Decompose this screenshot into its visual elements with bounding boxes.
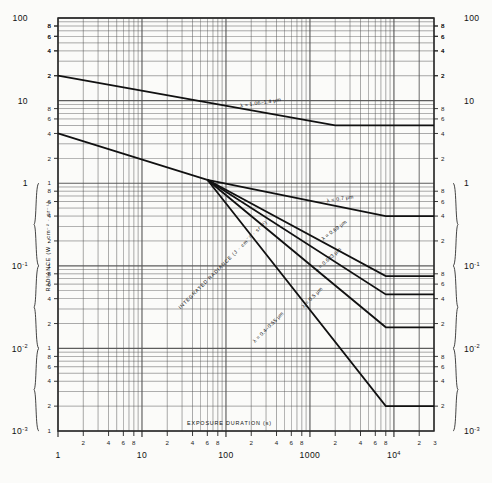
- x-minor-tick-label: 6: [122, 439, 126, 446]
- y-minor-tick-label: 6: [48, 33, 52, 40]
- y-minor-tick-label: 2: [48, 320, 52, 327]
- y-minor-tick-label: 8: [441, 187, 445, 194]
- y-minor-tick-label: 4: [441, 295, 445, 302]
- y-minor-tick-label: 6: [441, 33, 445, 40]
- chart-figure: 2244668822446688224466882244668822446688…: [0, 0, 492, 483]
- log-log-plot: 2244668822446688224466882244668822446688…: [0, 0, 492, 483]
- x-minor-tick-label: 4: [275, 439, 279, 446]
- x-decade-label: 10: [137, 450, 147, 460]
- y-minor-tick-label: 4: [48, 47, 52, 54]
- x-minor-tick-label: 2: [250, 439, 254, 446]
- y-decade-top-tick: 1: [48, 344, 52, 351]
- y-minor-tick-label: 4: [441, 130, 445, 137]
- y-decade-label-left: 10: [18, 96, 28, 106]
- y-decade-label-right: 100: [464, 13, 480, 23]
- y-minor-tick-label: 8: [48, 353, 52, 360]
- y-minor-tick-label: 2: [441, 402, 445, 409]
- x-minor-tick-label: 8: [300, 439, 304, 446]
- y-decade-top-tick: 1: [48, 179, 52, 186]
- y-minor-tick-label: 2: [441, 72, 445, 79]
- x-minor-tick-label: 8: [132, 439, 136, 446]
- x-minor-tick-label: 8: [384, 439, 388, 446]
- y-minor-tick-label: 6: [48, 363, 52, 370]
- y-minor-tick-label: 2: [441, 320, 445, 327]
- y-decade-text: 1: [464, 178, 469, 188]
- y-minor-tick-label: 4: [441, 377, 445, 384]
- y-minor-tick-label: 6: [441, 363, 445, 370]
- y-minor-tick-label: 2: [48, 402, 52, 409]
- x-minor-tick-label: 4: [359, 439, 363, 446]
- y-decade-text: 10: [18, 96, 28, 106]
- y-decade-label-right: 1: [464, 178, 469, 188]
- y-minor-tick-label: 2: [48, 155, 52, 162]
- y-minor-tick-label: 4: [48, 377, 52, 384]
- x-minor-tick-label: 6: [290, 439, 294, 446]
- y-minor-tick-label: 2: [441, 237, 445, 244]
- y-minor-tick-label: 6: [441, 280, 445, 287]
- y-decade-text: 100: [464, 13, 480, 23]
- x-minor-tick-label: 4: [191, 439, 195, 446]
- y-decade-label-right: 10: [464, 96, 474, 106]
- y-decade-text: 1: [23, 178, 28, 188]
- x-decade-label: 1000: [300, 450, 321, 460]
- y-minor-tick-label: 4: [48, 295, 52, 302]
- y-minor-tick-label: 6: [441, 198, 445, 205]
- x-axis-title: EXPOSURE DURATION (s): [187, 420, 272, 426]
- y-minor-tick-label: 8: [48, 22, 52, 29]
- y-minor-tick-label: 6: [48, 115, 52, 122]
- y-minor-tick-label: 8: [48, 187, 52, 194]
- x-decade-label: 1: [55, 450, 60, 460]
- y-decade-text: 10: [464, 96, 474, 106]
- x-minor-tick-label: 4: [107, 439, 111, 446]
- y-decade-top-tick: 1: [48, 427, 52, 434]
- y-minor-tick-label: 2: [441, 155, 445, 162]
- y-axis-title: RADIANCE (W · cm⁻² · sr⁻¹): [45, 201, 51, 292]
- x-minor-tick-label: 6: [374, 439, 378, 446]
- x-decade-label: 100: [218, 450, 234, 460]
- y-minor-tick-label: 4: [48, 130, 52, 137]
- y-minor-tick-label: 6: [441, 115, 445, 122]
- y-decade-text: 100: [12, 13, 28, 23]
- y-minor-tick-label: 8: [48, 105, 52, 112]
- x-minor-tick-label: 2: [166, 439, 170, 446]
- x-end-tick-label: 3: [433, 439, 437, 446]
- y-axis-title-text: RADIANCE (W · cm⁻² · sr⁻¹): [45, 201, 51, 292]
- x-minor-tick-label: 2: [82, 439, 86, 446]
- x-minor-tick-label: 6: [206, 439, 210, 446]
- y-minor-tick-label: 4: [441, 47, 445, 54]
- y-minor-tick-label: 8: [441, 105, 445, 112]
- y-minor-tick-label: 8: [441, 22, 445, 29]
- y-decade-label-left: 1: [23, 178, 28, 188]
- y-minor-tick-label: 2: [48, 72, 52, 79]
- x-minor-tick-label: 2: [334, 439, 338, 446]
- x-minor-tick-label: 2: [417, 439, 421, 446]
- y-decade-label-left: 100: [12, 13, 28, 23]
- y-minor-tick-label: 8: [441, 270, 445, 277]
- y-minor-tick-label: 4: [441, 212, 445, 219]
- x-minor-tick-label: 8: [216, 439, 220, 446]
- y-minor-tick-label: 8: [441, 353, 445, 360]
